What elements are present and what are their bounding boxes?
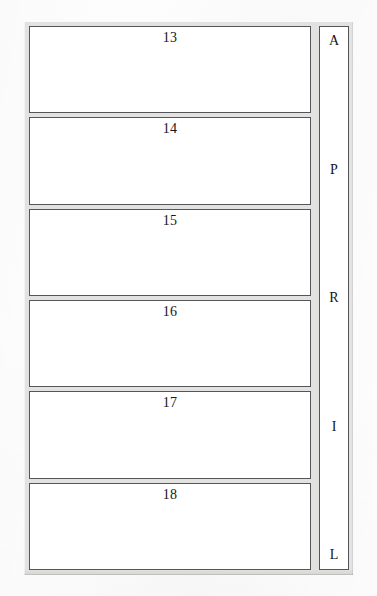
scanned-calendar-page: 13 14 15 16 17 18: [0, 0, 377, 596]
box-writing-area[interactable]: [30, 414, 310, 477]
numbered-box[interactable]: 14: [29, 117, 311, 204]
box-number-label: 15: [30, 213, 310, 229]
box-number-label: 16: [30, 304, 310, 320]
numbered-box[interactable]: 18: [29, 483, 311, 570]
month-label-column: A P R I L: [319, 26, 349, 570]
box-writing-area[interactable]: [30, 140, 310, 203]
numbered-box-column: 13 14 15 16 17 18: [29, 26, 311, 570]
box-number-label: 18: [30, 487, 310, 503]
month-letter: L: [320, 547, 348, 563]
box-number-label: 13: [30, 30, 310, 46]
month-letter: I: [320, 419, 348, 435]
box-writing-area[interactable]: [30, 506, 310, 569]
calendar-outer-frame: 13 14 15 16 17 18: [24, 21, 353, 575]
numbered-box[interactable]: 16: [29, 300, 311, 387]
box-writing-area[interactable]: [30, 49, 310, 112]
numbered-box[interactable]: 15: [29, 209, 311, 296]
box-number-label: 14: [30, 121, 310, 137]
numbered-box[interactable]: 17: [29, 391, 311, 478]
month-letter: A: [320, 33, 348, 49]
month-letter: P: [320, 162, 348, 178]
box-number-label: 17: [30, 395, 310, 411]
numbered-box[interactable]: 13: [29, 26, 311, 113]
month-letter: R: [320, 290, 348, 306]
box-writing-area[interactable]: [30, 323, 310, 386]
box-writing-area[interactable]: [30, 232, 310, 295]
